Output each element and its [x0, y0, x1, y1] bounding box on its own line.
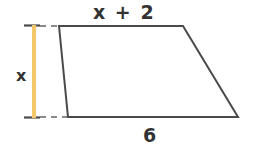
figure-canvas: x + 2 6 x [0, 0, 253, 150]
height-label: x [16, 68, 26, 84]
bottom-base-label: 6 [143, 126, 156, 145]
top-base-label: x + 2 [93, 3, 155, 22]
trapezoid-outline [59, 26, 238, 117]
